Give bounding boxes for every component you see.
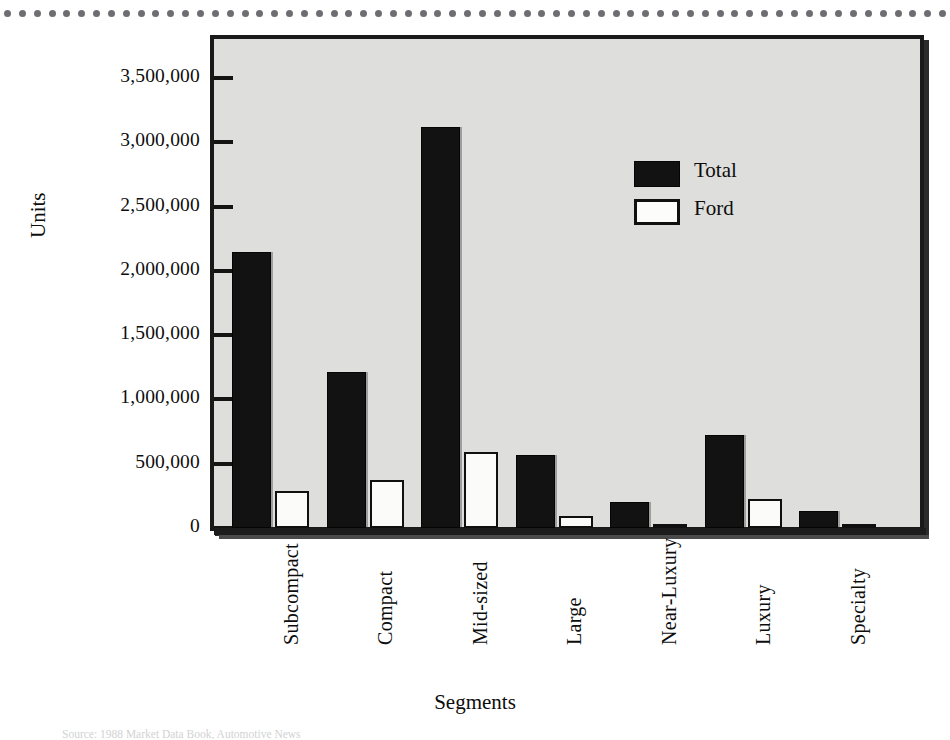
bar-total bbox=[327, 372, 366, 528]
bar-ford bbox=[748, 499, 782, 528]
y-axis-tick bbox=[214, 333, 233, 337]
bar-ford bbox=[464, 452, 498, 528]
bar-ford bbox=[370, 480, 404, 528]
legend-label-total: Total bbox=[694, 158, 737, 183]
y-axis-tick-label: 0 bbox=[60, 515, 200, 537]
legend-swatch-ford bbox=[634, 199, 680, 225]
bar-total bbox=[232, 252, 271, 528]
y-axis-tick-label: 1,500,000 bbox=[60, 322, 200, 344]
y-axis-tick-label: 1,000,000 bbox=[60, 386, 200, 408]
x-axis-tick-label: Mid-sized bbox=[469, 561, 492, 645]
plot-frame bbox=[210, 35, 924, 531]
bar-ford bbox=[559, 516, 593, 528]
x-axis-tick-label: Specialty bbox=[847, 568, 870, 645]
y-axis-tick bbox=[214, 269, 233, 273]
x-axis-tick-label: Subcompact bbox=[280, 543, 303, 645]
y-axis-tick bbox=[214, 397, 233, 401]
x-axis-title: Segments bbox=[0, 690, 950, 715]
y-axis-tick-label: 2,500,000 bbox=[60, 194, 200, 216]
y-axis-tick-label: 500,000 bbox=[60, 451, 200, 473]
y-axis-tick-label: 2,000,000 bbox=[60, 258, 200, 280]
x-axis-tick-label: Near-Luxury bbox=[658, 538, 681, 645]
x-axis-tick-label: Large bbox=[563, 597, 586, 645]
x-axis-tick-label: Luxury bbox=[752, 584, 775, 645]
x-axis-tick-label: Compact bbox=[374, 571, 397, 645]
y-axis-tick bbox=[214, 205, 233, 209]
y-axis-tick bbox=[214, 140, 233, 144]
y-axis-tick bbox=[214, 76, 233, 80]
y-axis-title: Units bbox=[26, 192, 51, 238]
bar-total bbox=[516, 455, 555, 528]
x-axis-baseline bbox=[214, 528, 926, 535]
y-axis-tick-label: 3,000,000 bbox=[60, 129, 200, 151]
y-axis-tick bbox=[214, 462, 233, 466]
bar-chart-figure: 0500,0001,000,0001,500,0002,000,0002,500… bbox=[0, 0, 950, 740]
bar-total bbox=[610, 502, 649, 528]
bar-total bbox=[705, 435, 744, 528]
bar-ford bbox=[275, 491, 309, 528]
y-axis-tick-label: 3,500,000 bbox=[60, 65, 200, 87]
x-axis-baseline-shadow bbox=[219, 535, 929, 539]
source-caption: Source: 1988 Market Data Book, Automotiv… bbox=[62, 728, 582, 739]
legend-label-ford: Ford bbox=[694, 196, 734, 221]
bar-total bbox=[421, 127, 460, 528]
bar-total bbox=[799, 511, 838, 528]
legend-swatch-total bbox=[634, 161, 680, 187]
